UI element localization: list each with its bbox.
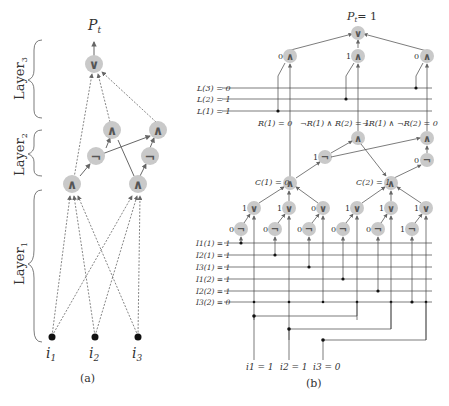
- layer2-label: Layer2: [12, 133, 29, 176]
- svg-text:∨: ∨: [250, 203, 258, 214]
- C2-label: C(2) = 1: [356, 178, 390, 187]
- R-mid-label: ¬R(1) ∧ R(2) = 1: [300, 119, 369, 128]
- svg-text:0: 0: [278, 52, 283, 61]
- svg-text:∧: ∧: [354, 51, 362, 62]
- svg-text:I2(2) = 1: I2(2) = 1: [195, 287, 230, 296]
- svg-text:∧: ∧: [286, 51, 294, 62]
- and-node-top-2: ∧: [351, 49, 365, 63]
- svg-text:¬: ¬: [374, 224, 382, 235]
- input-node-i3: [135, 334, 142, 341]
- and-node-top-3: ∧: [420, 49, 434, 63]
- L3-label: L(3) = 0: [196, 84, 231, 93]
- svg-text:0: 0: [263, 225, 268, 234]
- svg-text:0: 0: [414, 52, 419, 61]
- svg-text:0: 0: [311, 204, 316, 213]
- svg-text:I3(1) = 1: I3(1) = 1: [195, 263, 230, 272]
- svg-text:¬: ¬: [305, 224, 313, 235]
- R-right-label: ¬R(1) ∧ ¬R(2) = 0: [362, 119, 438, 128]
- not-node-a-2: ¬: [141, 147, 159, 165]
- svg-text:¬: ¬: [91, 149, 102, 164]
- R1-label: R(1) = 0: [257, 119, 292, 128]
- or-node-a: ∨: [85, 55, 103, 73]
- not-node-mid-2: ¬: [420, 153, 434, 167]
- svg-text:∧: ∧: [133, 177, 144, 192]
- svg-text:0: 0: [331, 225, 336, 234]
- svg-text:0: 0: [297, 225, 302, 234]
- output-label-b: Pt= 1: [346, 10, 377, 24]
- input-i1-label: i1 = 1: [246, 362, 274, 372]
- layer3-brace: [28, 40, 42, 118]
- input-i3-label: i3 = 0: [313, 362, 341, 372]
- and-node-mid-2: ∧: [420, 131, 434, 145]
- svg-text:∨: ∨: [354, 28, 362, 39]
- input-label-i3: i3: [132, 345, 142, 363]
- svg-text:1: 1: [345, 204, 350, 213]
- svg-text:¬: ¬: [423, 155, 431, 166]
- not-node-a-1: ¬: [87, 147, 105, 165]
- or-row: ∨ ∨ ∨ ∨ ∨ ∨ 1 1 0 1 1 1: [242, 201, 433, 215]
- layer2-brace: [28, 130, 42, 176]
- panel-b: Pt= 1 L(3) = 0 L(2) = 1 L(1) = 1 ∨ ∧ ∧ ∧…: [195, 10, 438, 390]
- svg-text:¬: ¬: [408, 224, 416, 235]
- input-node-i2: [92, 334, 99, 341]
- figure: Pt Layer3 Layer2 Layer1 ∨ ∧ ∧ ¬ ¬ ∧: [0, 0, 449, 406]
- svg-text:∧: ∧: [67, 177, 78, 192]
- svg-text:∨: ∨: [89, 57, 100, 72]
- svg-text:¬: ¬: [271, 224, 279, 235]
- layer1-brace: [28, 190, 42, 342]
- svg-text:1: 1: [313, 153, 318, 162]
- and-node-a-3: ∧: [63, 175, 81, 193]
- input-label-i1: i1: [46, 345, 56, 363]
- caption-a: (a): [80, 372, 95, 385]
- and-node-mid-1: ∧: [351, 131, 365, 145]
- layer3-label: Layer3: [12, 57, 29, 100]
- svg-text:¬: ¬: [339, 224, 347, 235]
- and-node-top-1: ∧: [283, 49, 297, 63]
- svg-text:∧: ∧: [423, 51, 431, 62]
- svg-text:∧: ∧: [153, 123, 164, 138]
- svg-text:∨: ∨: [353, 203, 361, 214]
- svg-text:∨: ∨: [387, 203, 395, 214]
- C1-label: C(1) = 0: [255, 178, 289, 187]
- layer1-label: Layer1: [12, 242, 29, 285]
- svg-text:¬: ¬: [145, 149, 156, 164]
- input-i2-label: i2 = 1: [280, 362, 308, 372]
- svg-text:1: 1: [414, 204, 419, 213]
- or-node-top: ∨: [351, 26, 365, 40]
- and-node-a-2: ∧: [149, 121, 167, 139]
- svg-text:1: 1: [242, 204, 247, 213]
- output-label-a: Pt: [87, 17, 101, 35]
- svg-text:0: 0: [366, 225, 371, 234]
- input-node-i1: [49, 334, 56, 341]
- svg-text:∨: ∨: [319, 203, 327, 214]
- svg-text:1: 1: [379, 204, 384, 213]
- svg-text:1: 1: [400, 225, 405, 234]
- svg-text:∨: ∨: [422, 203, 430, 214]
- and-node-a-1: ∧: [103, 121, 121, 139]
- not-row: ¬ ¬ ¬ ¬ ¬ ¬ 0 0 0 0 0 1: [229, 222, 419, 236]
- L1-label: L(1) = 1: [196, 107, 231, 116]
- svg-text:¬: ¬: [321, 152, 329, 163]
- L2-label: L(2) = 1: [196, 95, 231, 104]
- svg-text:I1(1) = 1: I1(1) = 1: [195, 239, 230, 248]
- caption-b: (b): [306, 377, 322, 390]
- svg-text:∧: ∧: [354, 133, 362, 144]
- svg-text:∧: ∧: [423, 133, 431, 144]
- not-node-mid-1: ¬: [318, 150, 332, 164]
- svg-text:I3(2) = 0: I3(2) = 0: [195, 298, 230, 307]
- input-label-i2: i2: [89, 345, 99, 363]
- svg-text:1: 1: [277, 204, 282, 213]
- svg-text:I1(2) = 1: I1(2) = 1: [195, 275, 230, 284]
- and-node-a-4: ∧: [129, 175, 147, 193]
- panel-a: Pt Layer3 Layer2 Layer1 ∨ ∧ ∧ ¬ ¬ ∧: [12, 17, 167, 385]
- svg-text:1: 1: [346, 52, 351, 61]
- svg-text:∧: ∧: [107, 123, 118, 138]
- I-lines: [224, 243, 432, 302]
- svg-text:I2(1) = 1: I2(1) = 1: [195, 251, 230, 260]
- svg-text:¬: ¬: [237, 224, 245, 235]
- svg-text:0: 0: [414, 156, 419, 165]
- svg-text:∨: ∨: [285, 203, 293, 214]
- svg-text:0: 0: [229, 225, 234, 234]
